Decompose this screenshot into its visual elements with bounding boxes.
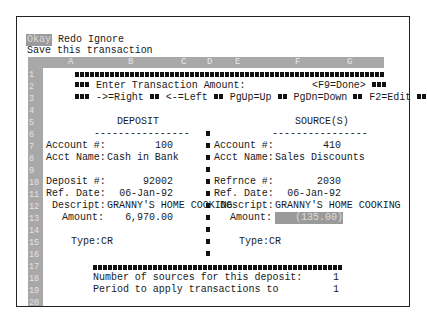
divider-mark [206, 167, 210, 172]
deposit-descript-label: Descript: [52, 200, 106, 212]
divider-mark [206, 131, 210, 136]
row-header-4[interactable]: 4 [29, 106, 34, 116]
deposit-acct-name-value: Cash in Bank [107, 152, 179, 164]
row-header-5[interactable]: 5 [29, 118, 34, 128]
row-header-16[interactable]: 16 [29, 250, 39, 260]
row-header-8[interactable]: 8 [29, 154, 34, 164]
source-descript-value[interactable]: GRANNY'S HOME COOKING [275, 200, 401, 212]
row-header-3[interactable]: 3 [29, 94, 34, 104]
column-header-f[interactable]: F [295, 56, 300, 68]
deposit-number-value[interactable]: 92002 [133, 176, 173, 188]
banner-top-border [75, 72, 385, 77]
source-account-label: Account #: [214, 140, 274, 152]
row-header-7[interactable]: 7 [29, 142, 34, 152]
source-refrnce-value[interactable]: 2030 [301, 176, 341, 188]
banner-prompt-row: Enter Transaction Amount: [75, 80, 246, 92]
source-descript-label: Descript: [220, 200, 274, 212]
source-ref-date-value[interactable]: 06-Jan-92 [281, 188, 341, 200]
deposit-type-label: Type: [71, 236, 101, 248]
source-type-value[interactable]: CR [269, 236, 281, 248]
source-ref-date-label: Ref. Date: [214, 188, 274, 200]
divider-mark [206, 191, 210, 196]
row-header-10[interactable]: 10 [29, 178, 39, 188]
divider-mark [206, 179, 210, 184]
divider-mark [206, 155, 210, 160]
deposit-ref-date-label: Ref. Date: [46, 188, 106, 200]
spreadsheet-window: Okay Redo Ignore Save this transaction A… [16, 16, 410, 307]
column-header-e[interactable]: E [235, 56, 240, 68]
divider-mark [206, 143, 210, 148]
done-key-hint[interactable]: <F9=Done> [312, 80, 366, 91]
deposit-underline: ---------------- [94, 128, 190, 140]
divider-mark [206, 227, 210, 232]
period-value[interactable]: 1 [317, 284, 339, 296]
column-header-c[interactable]: C [181, 56, 186, 68]
source-acct-name-value: Sales Discounts [275, 152, 365, 164]
row-header-18[interactable]: 18 [29, 274, 39, 284]
source-amount-input[interactable]: (135.00) [275, 212, 343, 224]
row-header-17[interactable]: 17 [29, 262, 39, 272]
column-header-bar: A B C D E F G [28, 57, 384, 68]
banner-keys-row: ->=Right <-=Left PgUp=Up PgDn=Down F2=Ed… [75, 92, 427, 104]
banner-done-row: <F9=Done> [312, 80, 387, 92]
deposit-amount-value[interactable]: 6,970.00 [113, 212, 173, 224]
row-header-2[interactable]: 2 [29, 82, 34, 92]
row-header-6[interactable]: 6 [29, 130, 34, 140]
row-header-15[interactable]: 15 [29, 238, 39, 248]
row-header-9[interactable]: 9 [29, 166, 34, 176]
period-label: Period to apply transactions to [93, 284, 278, 296]
deposit-account-value[interactable]: 100 [143, 140, 173, 152]
sources-count-label: Number of sources for this deposit: [93, 272, 302, 284]
deposit-ref-date-value[interactable]: 06-Jan-92 [113, 188, 173, 200]
row-header-1[interactable]: 1 [29, 70, 34, 80]
deposit-type-value[interactable]: CR [101, 236, 113, 248]
source-type-label: Type: [239, 236, 269, 248]
deposit-account-label: Account #: [46, 140, 106, 152]
deposit-amount-label: Amount: [62, 212, 104, 224]
sources-count-value[interactable]: 1 [317, 272, 339, 284]
source-underline: ---------------- [272, 128, 368, 140]
prompt-text: Enter Transaction Amount: [96, 80, 246, 91]
menu-status-text: Save this transaction [27, 45, 153, 57]
deposit-acct-name-label: Acct Name: [46, 152, 106, 164]
source-acct-name-label: Acct Name: [214, 152, 274, 164]
row-header-19[interactable]: 19 [29, 286, 39, 296]
divider-mark [206, 251, 210, 256]
footer-top-border [93, 265, 343, 270]
deposit-number-label: Deposit #: [46, 176, 106, 188]
key-hint-edit: F2=Edit [369, 92, 411, 103]
source-title: SOURCE(S) [295, 116, 349, 128]
source-account-value[interactable]: 410 [311, 140, 341, 152]
key-hint-left: <-=Left [166, 92, 208, 103]
source-refrnce-label: Refrnce #: [214, 176, 274, 188]
key-hint-pgup: PgUp=Up [230, 92, 272, 103]
deposit-title: DEPOSIT [117, 116, 159, 128]
deposit-descript-value[interactable]: GRANNY'S HOME COOKING [107, 200, 233, 212]
row-header-11[interactable]: 11 [29, 190, 39, 200]
column-header-d[interactable]: D [207, 56, 212, 68]
row-header-20[interactable]: 20 [29, 298, 39, 308]
row-header-13[interactable]: 13 [29, 214, 39, 224]
column-header-a[interactable]: A [68, 56, 73, 68]
key-hint-pgdn: PgDn=Down [294, 92, 348, 103]
key-hint-right: ->=Right [96, 92, 144, 103]
row-header-12[interactable]: 12 [29, 202, 39, 212]
row-header-strip: 1 2 3 4 5 6 7 8 9 10 11 12 13 14 15 16 1… [28, 68, 43, 306]
divider-mark [206, 215, 210, 220]
column-header-g[interactable]: G [347, 56, 352, 68]
column-header-b[interactable]: B [128, 56, 133, 68]
row-header-14[interactable]: 14 [29, 226, 39, 236]
source-amount-label: Amount: [230, 212, 272, 224]
divider-mark [206, 239, 210, 244]
